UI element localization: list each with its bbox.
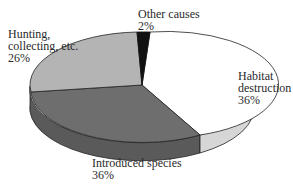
label-other-causes-pct: 2% xyxy=(138,20,200,32)
label-hunting: Hunting, collecting, etc. 26% xyxy=(8,28,78,64)
label-other-causes: Other causes 2% xyxy=(138,8,200,32)
label-introduced: Introduced species 36% xyxy=(92,157,182,181)
label-habitat-pct: 36% xyxy=(238,94,291,106)
label-introduced-pct: 36% xyxy=(92,169,182,181)
label-habitat: Habitat destruction 36% xyxy=(238,70,291,106)
label-hunting-pct: 26% xyxy=(8,52,78,64)
